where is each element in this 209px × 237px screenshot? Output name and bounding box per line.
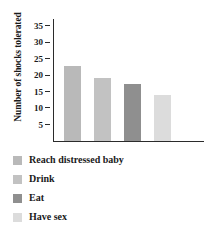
- y-axis-tick: 20: [34, 70, 50, 80]
- y-axis-tick-label: 15: [34, 87, 43, 97]
- y-axis-tick-label: 20: [34, 70, 43, 80]
- bar: [94, 78, 111, 141]
- bar: [154, 95, 171, 141]
- legend-item: Eat: [13, 190, 44, 206]
- y-axis-tick-mark: [45, 124, 50, 125]
- legend-color-swatch: [13, 175, 22, 184]
- legend-color-swatch: [13, 156, 22, 165]
- y-axis-tick: 10: [34, 103, 50, 113]
- legend-item: Drink: [13, 171, 55, 187]
- bar: [124, 84, 141, 141]
- y-axis-tick-mark: [45, 58, 50, 59]
- y-axis-tick: 35: [34, 21, 50, 31]
- legend-item: Reach distressed baby: [13, 152, 124, 168]
- legend-label: Reach distressed baby: [29, 154, 124, 166]
- y-axis-tick-labels: 3530252015105: [28, 20, 50, 141]
- legend-item: Have sex: [13, 209, 67, 225]
- y-axis-tick-label: 10: [34, 103, 43, 113]
- legend-color-swatch: [13, 213, 22, 222]
- y-axis-tick-mark: [45, 42, 50, 43]
- bar-chart-figure: Number of shocks tolerated 3530252015105: [0, 0, 209, 150]
- y-axis-tick-label: 35: [34, 21, 43, 31]
- y-axis-tick: 5: [39, 120, 51, 130]
- y-axis-tick-label: 25: [34, 54, 43, 64]
- y-axis-tick-label: 5: [39, 120, 44, 130]
- y-axis-tick-mark: [45, 75, 50, 76]
- y-axis-tick: 30: [34, 37, 50, 47]
- chart-legend: Reach distressed babyDrinkEatHave sex: [0, 152, 209, 237]
- legend-color-swatch: [13, 194, 22, 203]
- y-axis-tick-mark: [45, 25, 50, 26]
- y-axis-tick: 25: [34, 54, 50, 64]
- legend-label: Drink: [29, 173, 55, 185]
- legend-label: Have sex: [29, 211, 67, 223]
- y-axis-tick-label: 30: [34, 37, 43, 47]
- plot-area: [54, 19, 204, 141]
- y-axis-tick-mark: [45, 107, 50, 108]
- y-axis-title: Number of shocks tolerated: [11, 2, 25, 132]
- y-axis-tick: 15: [34, 87, 50, 97]
- y-axis-tick-mark: [45, 91, 50, 92]
- legend-label: Eat: [29, 192, 44, 204]
- bar: [64, 66, 81, 141]
